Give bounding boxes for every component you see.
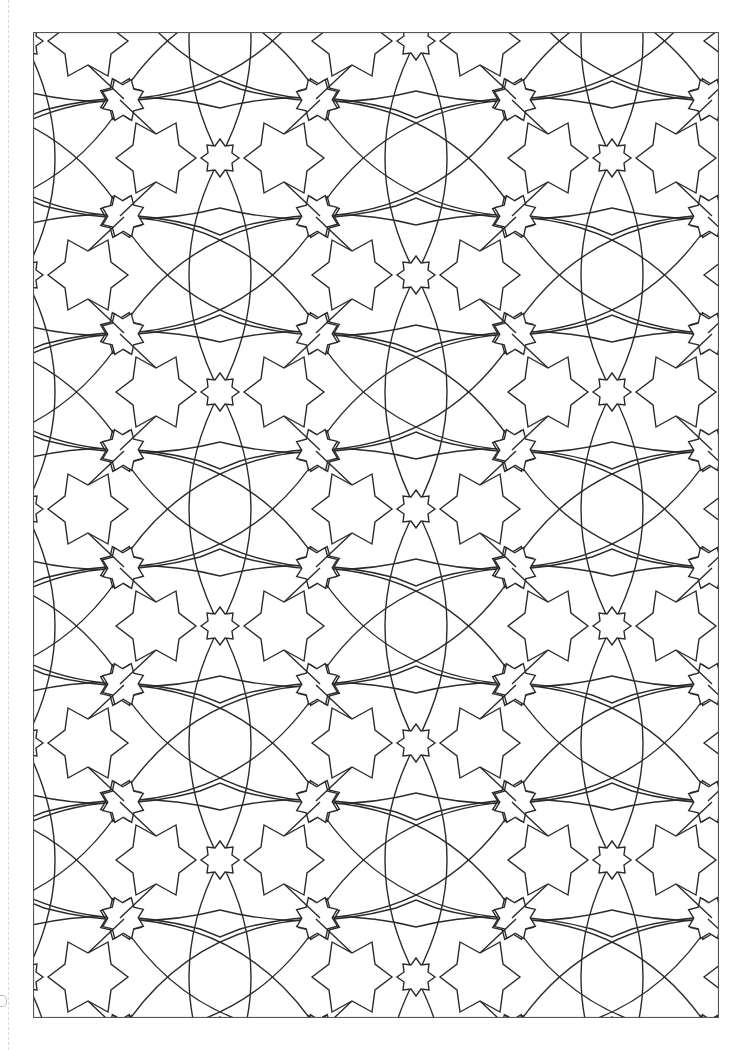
star-pattern [33,32,719,1018]
binder-hole-mark [0,995,7,1007]
margin-guide-line [8,0,9,1050]
pattern-artwork [33,32,719,1018]
coloring-page [0,0,740,1050]
